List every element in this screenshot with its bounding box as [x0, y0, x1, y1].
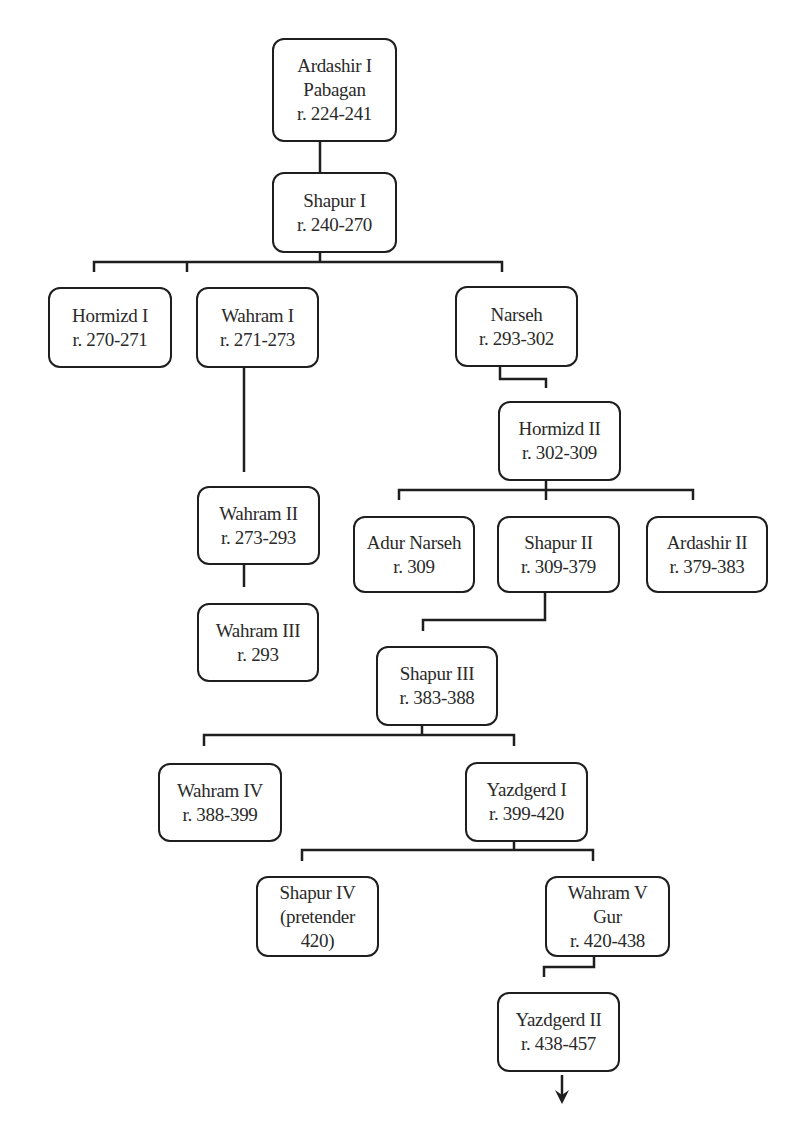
node-yazdgerd-ii: Yazdgerd II r. 438-457	[497, 992, 620, 1072]
node-name: Wahram II	[219, 502, 298, 526]
node-reign: r. 293	[237, 643, 278, 667]
node-adur-narseh: Adur Narseh r. 309	[353, 516, 475, 593]
down-arrow-icon	[552, 1076, 572, 1106]
node-wahram-iii: Wahram III r. 293	[197, 603, 319, 682]
node-wahram-v: Wahram V Gur r. 420-438	[545, 876, 670, 957]
node-ardashir-ii: Ardashir II r. 379-383	[646, 516, 768, 593]
node-reign: r. 420-438	[570, 929, 645, 953]
node-name: Yazdgerd II	[515, 1008, 601, 1032]
node-epithet: Gur	[593, 905, 622, 929]
node-name: Ardashir II	[667, 531, 748, 555]
node-narseh: Narseh r. 293-302	[455, 286, 578, 367]
node-reign: r. 302-309	[522, 441, 597, 465]
node-name: Adur Narseh	[367, 531, 461, 555]
node-reign: r. 309-379	[521, 555, 596, 579]
node-name: Wahram IV	[177, 779, 263, 803]
node-wahram-iv: Wahram IV r. 388-399	[158, 763, 282, 842]
node-reign: r. 438-457	[521, 1032, 596, 1056]
node-shapur-ii: Shapur II r. 309-379	[497, 516, 620, 593]
node-epithet: Pabagan	[303, 78, 365, 102]
node-name: Hormizd II	[519, 417, 601, 441]
node-hormizd-i: Hormizd I r. 270-271	[48, 287, 172, 368]
node-name: Wahram V	[568, 881, 648, 905]
node-reign: r. 270-271	[72, 328, 147, 352]
node-name: Shapur IV	[280, 881, 356, 905]
node-name: Shapur I	[303, 189, 366, 213]
node-reign: r. 271-273	[220, 328, 295, 352]
node-note: (pretender	[280, 905, 355, 929]
node-reign: r. 224-241	[297, 102, 372, 126]
node-wahram-ii: Wahram II r. 273-293	[197, 486, 320, 565]
node-name: Hormizd I	[72, 304, 148, 328]
node-reign: r. 388-399	[182, 803, 257, 827]
node-note-year: 420)	[301, 929, 335, 953]
node-yazdgerd-i: Yazdgerd I r. 399-420	[465, 762, 588, 842]
node-name: Shapur II	[524, 531, 593, 555]
node-name: Narseh	[490, 303, 542, 327]
node-reign: r. 383-388	[399, 686, 474, 710]
node-reign: r. 309	[393, 555, 434, 579]
node-name: Ardashir I	[297, 54, 372, 78]
node-reign: r. 379-383	[669, 555, 744, 579]
node-name: Wahram I	[221, 304, 294, 328]
node-shapur-i: Shapur I r. 240-270	[272, 172, 397, 253]
node-name: Shapur III	[400, 662, 475, 686]
node-ardashir-i: Ardashir I Pabagan r. 224-241	[272, 38, 397, 142]
node-shapur-iii: Shapur III r. 383-388	[376, 646, 498, 726]
node-hormizd-ii: Hormizd II r. 302-309	[498, 401, 621, 481]
node-name: Yazdgerd I	[486, 778, 566, 802]
node-reign: r. 240-270	[297, 213, 372, 237]
node-name: Wahram III	[216, 619, 301, 643]
node-shapur-iv: Shapur IV (pretender 420)	[256, 876, 379, 957]
node-wahram-i: Wahram I r. 271-273	[196, 287, 319, 368]
node-reign: r. 399-420	[489, 802, 564, 826]
node-reign: r. 293-302	[479, 327, 554, 351]
node-reign: r. 273-293	[221, 526, 296, 550]
